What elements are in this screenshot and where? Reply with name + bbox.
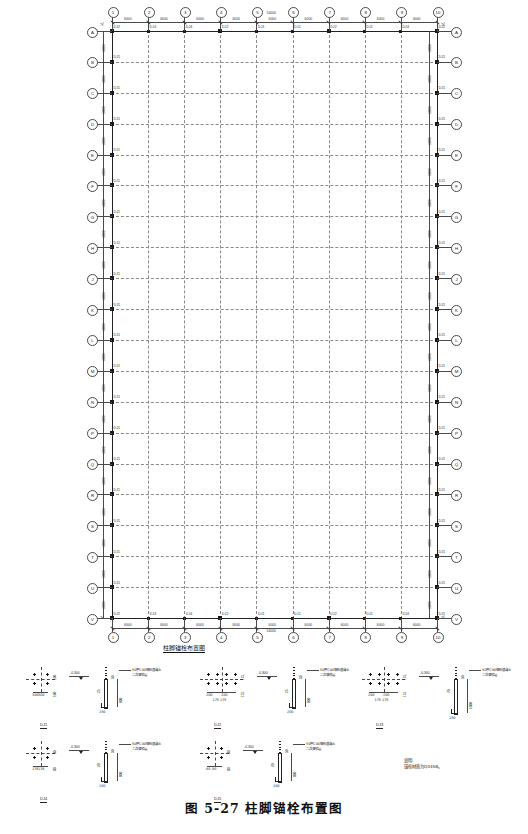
anchor-bolt-symbol bbox=[216, 682, 219, 685]
level-triangle bbox=[267, 677, 271, 680]
detail-hook-dim: 200 bbox=[287, 710, 293, 714]
grid-bubble-right-T[interactable]: T bbox=[451, 552, 462, 563]
grid-bubble-top-7[interactable]: 7 bbox=[324, 7, 335, 18]
grid-bubble-left-C[interactable]: C bbox=[87, 88, 98, 99]
grid-bubble-top-1[interactable]: 1 bbox=[108, 7, 119, 18]
drawing-sheet: DJ2DJ4DJ4DJ2DJ1DJ1DJ2DJ1DJ4DJ2DJ1DJ1DJ1D… bbox=[0, 0, 528, 834]
grid-bubble-top-4[interactable]: 4 bbox=[216, 7, 227, 18]
grid-bubble-right-M[interactable]: M bbox=[451, 366, 462, 377]
grid-bubble-right-H[interactable]: H bbox=[451, 243, 462, 254]
grid-bubble-bottom-6[interactable]: 6 bbox=[288, 632, 299, 643]
grid-bubble-right-E[interactable]: E bbox=[451, 150, 462, 161]
grid-leader-right bbox=[437, 525, 451, 526]
grid-bubble-left-R[interactable]: R bbox=[87, 490, 98, 501]
grid-bubble-left-B[interactable]: B bbox=[87, 57, 98, 68]
grid-line-horizontal bbox=[106, 494, 443, 495]
column-base-tag: DJ4 bbox=[150, 612, 157, 616]
grid-bubble-left-L[interactable]: L bbox=[87, 335, 98, 346]
grid-bubble-top-3[interactable]: 3 bbox=[180, 7, 191, 18]
level-text: -0.300 bbox=[244, 745, 254, 749]
dim-text-bottom: 6000 bbox=[196, 623, 204, 627]
dim-text-right: 6000 bbox=[428, 416, 432, 424]
grid-bubble-left-G[interactable]: G bbox=[87, 212, 98, 223]
grid-bubble-right-Q[interactable]: Q bbox=[451, 459, 462, 470]
grid-bubble-right-D[interactable]: D bbox=[451, 119, 462, 130]
grid-leader-left bbox=[96, 31, 112, 32]
grid-bubble-left-K[interactable]: K bbox=[87, 305, 98, 316]
anchor-bolt-symbol bbox=[33, 747, 36, 750]
grid-bubble-right-G[interactable]: G bbox=[451, 212, 462, 223]
grid-bubble-right-A[interactable]: A bbox=[451, 27, 462, 38]
grid-bubble-left-E[interactable]: E bbox=[87, 150, 98, 161]
grid-line-vertical bbox=[293, 25, 294, 624]
level-triangle bbox=[79, 677, 83, 680]
detail-side-dim-v2: 175 bbox=[403, 692, 407, 697]
grid-bubble-top-2[interactable]: 2 bbox=[144, 7, 155, 18]
detail-embed-note: 二次灌浆层 bbox=[320, 672, 335, 677]
grid-bubble-right-J[interactable]: J bbox=[451, 274, 462, 285]
grid-bubble-right-V[interactable]: V bbox=[451, 614, 462, 625]
grid-bubble-left-T[interactable]: T bbox=[87, 552, 98, 563]
detail-rod-dim-1: 50 bbox=[111, 749, 115, 753]
grid-bubble-bottom-4[interactable]: 4 bbox=[216, 632, 227, 643]
grid-bubble-top-6[interactable]: 6 bbox=[288, 7, 299, 18]
grid-bubble-left-F[interactable]: F bbox=[87, 181, 98, 192]
anchor-rod-hook-leg bbox=[289, 703, 290, 708]
dim-text-right: 6000 bbox=[428, 107, 432, 115]
dim-text-left: 6000 bbox=[102, 385, 106, 393]
grid-bubble-right-C[interactable]: C bbox=[451, 88, 462, 99]
grid-bubble-left-U[interactable]: U bbox=[87, 583, 98, 594]
grid-bubble-bottom-5[interactable]: 5 bbox=[252, 632, 263, 643]
column-base-tag: DJ1 bbox=[439, 117, 446, 121]
grid-bubble-right-N[interactable]: N bbox=[451, 397, 462, 408]
grid-bubble-bottom-9[interactable]: 9 bbox=[396, 632, 407, 643]
grid-leader-right bbox=[437, 62, 451, 63]
grid-bubble-bottom-10[interactable]: 10 bbox=[433, 632, 444, 643]
column-base-tag: DJ1 bbox=[439, 457, 446, 461]
grid-bubble-bottom-2[interactable]: 2 bbox=[144, 632, 155, 643]
grid-bubble-top-5[interactable]: 5 bbox=[252, 7, 263, 18]
detail-side-dim-v2: 100 bbox=[53, 692, 57, 697]
grid-bubble-right-R[interactable]: R bbox=[451, 490, 462, 501]
grid-bubble-left-A[interactable]: A bbox=[87, 27, 98, 38]
grid-bubble-left-Q[interactable]: Q bbox=[87, 459, 98, 470]
grid-bubble-left-V[interactable]: V bbox=[87, 614, 98, 625]
dim-line-top bbox=[112, 22, 437, 23]
dim-text-left: 6000 bbox=[102, 230, 106, 238]
grid-bubble-left-P[interactable]: P bbox=[87, 428, 98, 439]
anchor-bolt-symbol bbox=[234, 673, 237, 676]
grid-bubble-right-F[interactable]: F bbox=[451, 181, 462, 192]
grid-bubble-top-10[interactable]: 10 bbox=[433, 7, 444, 18]
grid-bubble-top-9[interactable]: 9 bbox=[396, 7, 407, 18]
anchor-bolt-symbol bbox=[396, 673, 399, 676]
centreline-vertical bbox=[222, 667, 223, 692]
grid-line-horizontal bbox=[106, 309, 443, 310]
grid-bubble-left-J[interactable]: J bbox=[87, 274, 98, 285]
grid-bubble-right-S[interactable]: S bbox=[451, 521, 462, 532]
detail-rod-dim-1: 50 bbox=[111, 675, 115, 679]
grid-bubble-bottom-7[interactable]: 7 bbox=[324, 632, 335, 643]
detail-side-dim-v2: 80 bbox=[53, 767, 57, 771]
grid-bubble-left-D[interactable]: D bbox=[87, 119, 98, 130]
anchor-bolt-symbol bbox=[234, 682, 237, 685]
grid-bubble-bottom-8[interactable]: 8 bbox=[360, 632, 371, 643]
grid-bubble-left-N[interactable]: N bbox=[87, 397, 98, 408]
notes-line-1: 锚栓材质为Q345B。 bbox=[404, 764, 442, 770]
grid-bubble-right-L[interactable]: L bbox=[451, 335, 462, 346]
grid-bubble-right-K[interactable]: K bbox=[451, 305, 462, 316]
grid-line-vertical bbox=[365, 25, 366, 624]
grid-bubble-right-B[interactable]: B bbox=[451, 57, 462, 68]
grid-bubble-left-M[interactable]: M bbox=[87, 366, 98, 377]
grid-line-horizontal bbox=[106, 556, 443, 557]
grid-bubble-right-P[interactable]: P bbox=[451, 428, 462, 439]
grid-bubble-left-H[interactable]: H bbox=[87, 243, 98, 254]
grid-bubble-left-S[interactable]: S bbox=[87, 521, 98, 532]
dim-text-left: 6000 bbox=[102, 261, 106, 269]
grid-bubble-right-U[interactable]: U bbox=[451, 583, 462, 594]
dim-tick bbox=[254, 626, 258, 630]
dim-text-top: 6000 bbox=[232, 17, 240, 21]
column-base-tag: DJ1 bbox=[114, 550, 121, 554]
grid-bubble-top-8[interactable]: 8 bbox=[360, 7, 371, 18]
grid-bubble-bottom-3[interactable]: 3 bbox=[180, 632, 191, 643]
grid-bubble-bottom-1[interactable]: 1 bbox=[108, 632, 119, 643]
